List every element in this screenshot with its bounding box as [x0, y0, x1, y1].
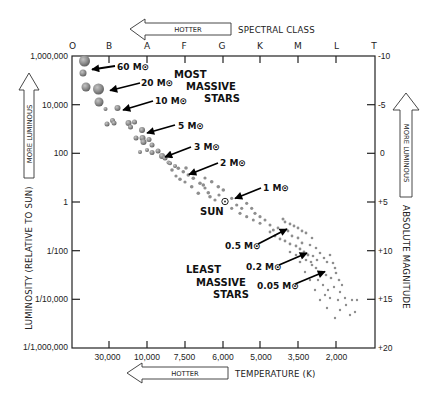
- star-point: [104, 107, 108, 111]
- luminosity-title: LUMINOSITY (RELATIVE TO SUN): [24, 186, 34, 330]
- x-tick-label: 10,000: [134, 352, 160, 362]
- star-point: [222, 188, 226, 192]
- star-point: [139, 127, 145, 133]
- star-point: [284, 240, 287, 243]
- y2-tick-label: 0: [380, 148, 385, 158]
- star-point: [93, 84, 104, 95]
- pointer-arrow-icon: [235, 188, 261, 199]
- class-label: T: [370, 41, 377, 51]
- star-point: [316, 259, 319, 262]
- star-point: [326, 307, 328, 309]
- sun-label: SUN: [200, 206, 224, 217]
- mass-label-0-05: 0.05 M⊙: [257, 281, 299, 291]
- pointer-arrow-icon: [279, 253, 307, 265]
- star-point: [240, 207, 243, 210]
- label-line: LEAST: [186, 264, 221, 275]
- star-point: [156, 149, 161, 154]
- star-point: [190, 185, 194, 189]
- star-point: [327, 289, 329, 291]
- star-point: [178, 178, 182, 182]
- least-massive-label: LEAST MASSIVE STARS: [186, 264, 249, 300]
- star-point: [207, 191, 211, 195]
- star-point: [299, 248, 302, 251]
- star-point: [356, 299, 358, 301]
- star-point: [269, 224, 272, 227]
- label-line: STARS: [213, 289, 249, 300]
- mass-label-5: 5 M⊙: [178, 121, 204, 131]
- star-point: [202, 183, 206, 187]
- class-label: B: [106, 41, 112, 51]
- mass-label-1: 1 M⊙: [263, 183, 289, 193]
- star-point: [334, 317, 336, 319]
- star-point: [319, 299, 321, 301]
- star-point: [309, 244, 312, 247]
- temperature-tick-labels: 30,000 10,000 7,500 6,000 5,000 3,500 2,…: [95, 352, 348, 362]
- star-point: [307, 254, 310, 257]
- star-point: [134, 136, 139, 141]
- x-tick-label: 30,000: [95, 352, 121, 362]
- star-point: [311, 237, 314, 240]
- star-point: [150, 150, 155, 155]
- star-point: [341, 284, 343, 286]
- star-point: [322, 284, 324, 286]
- star-point: [309, 279, 311, 281]
- mass-label-0-2: 0.2 M⊙: [246, 262, 282, 272]
- star-point: [279, 238, 282, 241]
- star-point: [147, 137, 152, 142]
- pointer-arrow-icon: [189, 163, 218, 175]
- star-point: [338, 279, 341, 282]
- star-point: [80, 70, 87, 77]
- mass-label-10: 10 M⊙: [155, 96, 187, 106]
- star-point: [326, 261, 329, 264]
- x-tick-label: 2,000: [326, 352, 348, 362]
- class-label: F: [181, 41, 186, 51]
- mass-label-60: 60 M⊙: [117, 62, 149, 72]
- star-point: [337, 299, 339, 301]
- star-point: [269, 231, 272, 234]
- magnitude-tick-labels: -10 -5 0 +5 +10 +15 +20: [378, 51, 393, 353]
- star-point: [203, 186, 206, 189]
- star-point: [297, 237, 300, 240]
- right-luminous-arrow: MORE LUMINOUS: [393, 93, 419, 197]
- star-point: [289, 251, 292, 254]
- star-point: [150, 143, 155, 148]
- y2-tick-label: -5: [378, 100, 386, 110]
- mass-label-2: 2 M⊙: [220, 158, 246, 168]
- y-tick-label: 1: [63, 197, 68, 207]
- star-point: [128, 125, 133, 130]
- label-line: MASSIVE: [186, 81, 236, 92]
- mass-label-20: 20 M⊙: [141, 78, 173, 88]
- temperature-title: TEMPERATURE (K): [234, 369, 316, 379]
- star-point: [258, 215, 261, 218]
- hotter-label-top: HOTTER: [174, 26, 202, 34]
- star-point: [345, 304, 347, 306]
- star-point: [203, 176, 206, 179]
- star-point: [301, 230, 304, 233]
- star-point: [317, 279, 319, 281]
- star-point: [217, 193, 220, 196]
- star-point: [311, 264, 314, 267]
- star-point: [230, 207, 233, 210]
- star-point: [330, 277, 333, 280]
- spectral-class-title: SPECTRAL CLASS: [238, 25, 315, 35]
- star-point: [339, 291, 341, 293]
- class-label: K: [257, 41, 264, 51]
- star-point: [235, 203, 238, 206]
- star-point: [314, 289, 316, 291]
- label-line: MOST: [174, 69, 207, 80]
- sun-symbol-icon: [222, 198, 228, 204]
- star-point: [112, 121, 117, 126]
- magnitude-title: ABSOLUTE MAGNITUDE: [401, 205, 411, 309]
- star-point: [351, 299, 353, 301]
- star-point: [295, 254, 298, 257]
- star-point: [295, 245, 298, 248]
- y-tick-label: 100: [54, 148, 68, 158]
- star-point: [184, 166, 188, 170]
- y2-tick-label: +5: [378, 197, 388, 207]
- star-point: [301, 242, 304, 245]
- star-point: [210, 180, 214, 184]
- star-point: [339, 309, 341, 311]
- star-point: [312, 255, 315, 258]
- x-tick-label: 7,500: [174, 352, 196, 362]
- star-point: [344, 297, 346, 299]
